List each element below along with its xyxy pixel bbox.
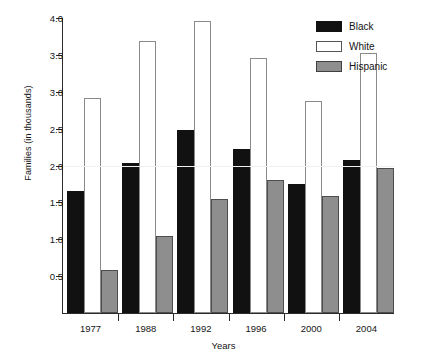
x-axis-tick-label-1996: 1996: [226, 323, 286, 334]
bar-white-2004: [360, 53, 377, 313]
legend-swatch-black: [316, 21, 342, 32]
y-axis-tick-label: 1.5: [37, 197, 63, 208]
y-axis-tick-label: 0.5: [37, 271, 63, 282]
legend-swatch-white: [316, 41, 342, 52]
y-axis-tick: 2.0: [0, 166, 63, 167]
y-axis-tick-label: 2.0: [37, 160, 63, 171]
legend-item-white: White: [316, 38, 436, 55]
y-axis-tick: 0.5: [0, 276, 63, 277]
legend-label-white: White: [349, 41, 375, 52]
bar-hispanic-2004: [377, 168, 394, 313]
bar-white-1996: [250, 58, 267, 313]
y-axis-tick-label: 4.0: [37, 13, 63, 24]
bar-hispanic-1996: [267, 180, 284, 313]
x-axis-tick-mark: [173, 314, 174, 321]
bar-black-2000: [288, 184, 305, 313]
bar-white-1992: [194, 21, 211, 313]
bar-black-1992: [177, 130, 194, 313]
bar-black-1988: [122, 163, 139, 313]
bar-hispanic-1977: [101, 270, 118, 313]
y-axis-tick-label: 1.0: [37, 234, 63, 245]
x-axis-tick-label-2000: 2000: [281, 323, 341, 334]
y-axis-tick: 1.0: [0, 239, 63, 240]
legend-swatch-hispanic: [316, 61, 342, 72]
x-axis-tick-label-2004: 2004: [336, 323, 396, 334]
x-axis-tick-label-1992: 1992: [171, 323, 231, 334]
y-axis-tick: 3.0: [0, 92, 63, 93]
x-axis-tick-mark: [229, 314, 230, 321]
x-axis-tick-mark: [118, 314, 119, 321]
bar-black-1996: [233, 149, 250, 313]
bar-hispanic-2000: [322, 196, 339, 313]
y-axis-tick-label: 2.5: [37, 123, 63, 134]
legend-item-hispanic: Hispanic: [316, 58, 436, 75]
y-axis-tick: 1.5: [0, 202, 63, 203]
x-axis-tick-mark: [339, 314, 340, 321]
legend-item-black: Black: [316, 18, 436, 35]
y-axis-tick: 2.5: [0, 129, 63, 130]
bar-hispanic-1992: [211, 199, 228, 313]
bar-black-2004: [343, 160, 360, 313]
chart-legend: BlackWhiteHispanic: [316, 18, 436, 78]
y-axis-tick: 3.5: [0, 55, 63, 56]
bar-chart: Families (in thousands) 0.51.01.52.02.53…: [0, 0, 447, 360]
y-axis-tick-label: 3.0: [37, 86, 63, 97]
legend-label-black: Black: [349, 21, 373, 32]
x-axis-label: Years: [0, 340, 447, 351]
gridline: [63, 166, 394, 167]
x-axis-tick-mark: [284, 314, 285, 321]
y-axis-tick: 4.0: [0, 18, 63, 19]
bar-white-1977: [84, 98, 101, 313]
x-axis-tick-label-1977: 1977: [61, 323, 121, 334]
bar-white-2000: [305, 101, 322, 313]
y-axis-tick-label: 3.5: [37, 49, 63, 60]
bar-hispanic-1988: [156, 236, 173, 313]
legend-label-hispanic: Hispanic: [349, 61, 387, 72]
x-axis-tick-label-1988: 1988: [116, 323, 176, 334]
bar-white-1988: [139, 41, 156, 313]
bar-black-1977: [67, 191, 84, 313]
